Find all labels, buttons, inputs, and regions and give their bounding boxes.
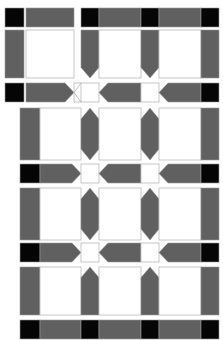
white-gap-1 xyxy=(81,83,99,102)
white-cell-1 xyxy=(40,267,81,315)
left-black-cap xyxy=(20,243,40,262)
arrow-right-1 xyxy=(26,83,74,102)
row-top-band-row xyxy=(5,8,219,27)
black-node-1 xyxy=(81,320,99,339)
white-cell-1 xyxy=(40,188,81,240)
arrow-left-1 xyxy=(99,83,141,102)
black-node-2 xyxy=(141,320,159,339)
row-upper-column-row xyxy=(5,30,219,78)
notch-gap xyxy=(74,83,81,102)
arrow-right-1 xyxy=(40,164,81,183)
column-hex-1 xyxy=(81,108,99,160)
left-black-cap xyxy=(20,320,40,339)
arrow-left-2 xyxy=(159,164,201,183)
black-node-3 xyxy=(201,320,219,339)
white-cell-2 xyxy=(99,108,141,160)
row-column-row-3 xyxy=(20,188,219,240)
left-black-cap xyxy=(20,164,40,183)
column-hex-2 xyxy=(141,108,159,160)
black-node-2 xyxy=(141,8,159,27)
pattern-diagram xyxy=(0,0,223,340)
arrow-left-2 xyxy=(159,243,201,262)
column-hex-2 xyxy=(141,188,159,240)
row-bottom-band-row xyxy=(20,320,219,339)
arrow-left-1 xyxy=(99,164,141,183)
white-gap-2 xyxy=(141,243,159,262)
black-node-3 xyxy=(201,8,219,27)
left-black-cap xyxy=(5,8,24,27)
white-gap-2 xyxy=(141,83,159,102)
right-column xyxy=(201,188,219,240)
right-column xyxy=(201,30,219,78)
left-gray-bar xyxy=(26,8,74,27)
right-black-cap xyxy=(201,243,219,262)
right-column xyxy=(201,267,219,315)
left-panel-column xyxy=(5,30,24,78)
white-gap-2 xyxy=(141,164,159,183)
column-arrow-down-1 xyxy=(81,30,99,78)
row-column-row-4 xyxy=(20,267,219,315)
right-black-cap xyxy=(201,164,219,183)
gray-run-2 xyxy=(159,8,201,27)
left-black-cap xyxy=(5,83,24,102)
column-arrow-up-2 xyxy=(141,267,159,315)
white-gap-1 xyxy=(81,243,99,262)
column-arrow-down-2 xyxy=(141,30,159,78)
row-arrow-band-row-2 xyxy=(20,164,219,183)
white-cell-3 xyxy=(159,108,201,160)
left-column xyxy=(20,188,40,240)
gray-run-2 xyxy=(99,320,141,339)
arrow-left-2 xyxy=(159,83,201,102)
white-cell-2 xyxy=(159,30,201,78)
arrow-right-1 xyxy=(40,243,81,262)
white-cell-2 xyxy=(99,188,141,240)
white-gap-1 xyxy=(81,164,99,183)
white-cell-3 xyxy=(159,188,201,240)
left-column xyxy=(20,267,40,315)
left-panel-cell xyxy=(26,30,74,78)
gray-run-1 xyxy=(40,320,81,339)
row-column-row-2 xyxy=(20,108,219,160)
gray-run-3 xyxy=(159,320,201,339)
diagram-canvas xyxy=(0,0,223,340)
white-cell-2 xyxy=(99,267,141,315)
white-cell-1 xyxy=(40,108,81,160)
left-column xyxy=(20,108,40,160)
column-hex-1 xyxy=(81,188,99,240)
row-arrow-band-row-3 xyxy=(20,243,219,262)
white-cell-1 xyxy=(99,30,141,78)
row-arrow-band-row-1 xyxy=(5,83,219,102)
right-column xyxy=(201,108,219,160)
right-black-cap xyxy=(201,83,219,102)
gray-run-1 xyxy=(99,8,141,27)
white-cell-3 xyxy=(159,267,201,315)
column-arrow-up-1 xyxy=(81,267,99,315)
arrow-left-1 xyxy=(99,243,141,262)
black-node-1 xyxy=(81,8,99,27)
